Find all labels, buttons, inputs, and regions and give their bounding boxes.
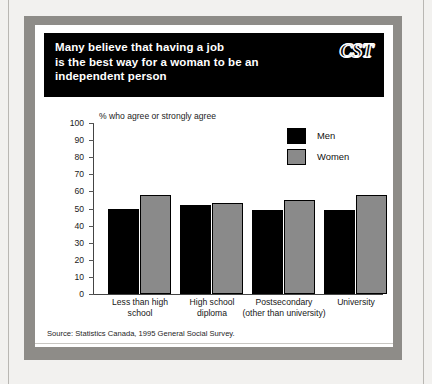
- bar-group: [252, 123, 316, 294]
- bar-group: [108, 123, 172, 294]
- x-axis-line: [93, 294, 383, 295]
- bar-men: [252, 210, 283, 294]
- bar-men: [180, 205, 211, 294]
- bar-group: [324, 123, 388, 294]
- y-tick-label-80: 80: [74, 152, 84, 162]
- chart-area: % who agree or strongly agree Men Women …: [35, 105, 393, 347]
- bar-women: [284, 200, 315, 294]
- y-tick-label-10: 10: [74, 272, 84, 282]
- bar-group: [180, 123, 244, 294]
- y-tick-label-50: 50: [74, 204, 84, 214]
- bar-women: [212, 203, 243, 294]
- bar-men: [324, 210, 355, 294]
- y-tick-label-20: 20: [74, 255, 84, 265]
- title-banner: Many believe that having a job is the be…: [44, 33, 384, 97]
- source-divider: [35, 343, 393, 344]
- y-tick-label-100: 100: [70, 118, 84, 128]
- bar-series-container: [94, 123, 384, 294]
- bar-women: [140, 195, 171, 294]
- y-tick-label-40: 40: [74, 221, 84, 231]
- source-note: Source: Statistics Canada, 1995 General …: [47, 329, 235, 338]
- page-rule-right: [423, 0, 424, 384]
- bar-women: [356, 195, 387, 294]
- banner-title: Many believe that having a job is the be…: [55, 40, 315, 84]
- y-axis-caption: % who agree or strongly agree: [99, 111, 216, 121]
- y-tick-label-60: 60: [74, 186, 84, 196]
- page-rule-left: [8, 0, 9, 384]
- y-tick-label-0: 0: [79, 289, 84, 299]
- figure-frame: Many believe that having a job is the be…: [24, 16, 402, 360]
- bar-men: [108, 209, 139, 295]
- figure-card: Many believe that having a job is the be…: [35, 25, 393, 347]
- y-tick-0: 0: [89, 294, 94, 295]
- category-label: University: [312, 297, 400, 308]
- y-tick-label-30: 30: [74, 238, 84, 248]
- y-tick-label-70: 70: [74, 169, 84, 179]
- chart-axes: 0102030405060708090100: [93, 123, 393, 295]
- page-background: Many believe that having a job is the be…: [0, 0, 432, 384]
- x-axis-category-labels: Less than high schoolHigh school diploma…: [94, 297, 394, 331]
- y-tick-label-90: 90: [74, 135, 84, 145]
- cst-logo: CST: [340, 40, 373, 62]
